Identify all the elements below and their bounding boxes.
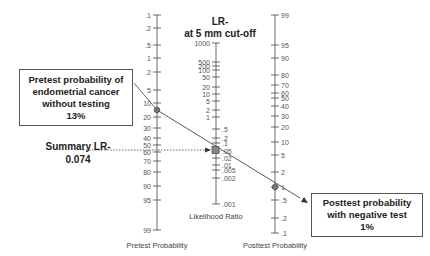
lr-ticks: 1000500200100502010521.5.2.1.05.02.01.00… xyxy=(194,40,235,208)
tick-label: 10 xyxy=(143,100,151,107)
pretest-callout-value: 13% xyxy=(20,110,132,122)
tick-label: .2 xyxy=(281,215,287,222)
tick-label: .1 xyxy=(281,230,287,237)
tick-label: 99 xyxy=(143,227,151,234)
posttest-axis-title: Posttest Probability xyxy=(243,241,307,250)
tick-label: 5 xyxy=(147,87,151,94)
tick-label: 90 xyxy=(143,183,151,190)
posttest-ticks: 9995908070605040302010521.5.2.1 xyxy=(271,12,289,237)
tick-label: 80 xyxy=(143,169,151,176)
tick-label: 1 xyxy=(206,114,210,121)
pretest-ticks: .1.2.51251020304050607080909599 xyxy=(143,12,161,234)
posttest-callout: Posttest probability with negative test … xyxy=(311,193,423,237)
tick-label: .1 xyxy=(222,140,228,147)
tick-label: .001 xyxy=(222,201,236,208)
tick-label: .1 xyxy=(145,12,151,19)
tick-label: 90 xyxy=(281,55,289,62)
tick-label: .002 xyxy=(222,175,236,182)
tick-label: .5 xyxy=(222,126,228,133)
lr-axis-title: Likelihood Ratio xyxy=(189,212,242,221)
arrowhead-icon xyxy=(301,197,308,203)
summary-lr-value: 0.074 xyxy=(38,153,118,166)
tick-label: .005 xyxy=(222,167,236,174)
posttest-callout-value: 1% xyxy=(312,221,422,233)
tick-label: .5 xyxy=(145,42,151,49)
tick-label: 40 xyxy=(281,103,289,110)
arrowhead-icon xyxy=(205,148,211,153)
posttest-callout-line2: with negative test xyxy=(312,209,422,221)
tick-label: 20 xyxy=(143,114,151,121)
tick-label: 10 xyxy=(281,139,289,146)
pretest-callout-line3: without testing xyxy=(20,98,132,110)
tick-label: 10 xyxy=(202,91,210,98)
pretest-point-marker xyxy=(154,107,160,113)
tick-label: 2 xyxy=(206,107,210,114)
tick-label: .2 xyxy=(145,25,151,32)
tick-label: 2 xyxy=(281,169,285,176)
tick-label: 70 xyxy=(281,82,289,89)
tick-label: 60 xyxy=(143,149,151,156)
tick-label: 1 xyxy=(147,55,151,62)
posttest-point-marker xyxy=(272,184,278,190)
tick-label: 50 xyxy=(143,142,151,149)
pretest-callout-line2: endometrial cancer xyxy=(20,86,132,98)
tick-label: 1000 xyxy=(194,40,210,47)
posttest-callout-line1: Posttest probability xyxy=(312,197,422,209)
tick-label: 50 xyxy=(202,74,210,81)
tick-label: 30 xyxy=(143,125,151,132)
summary-lr-point-marker xyxy=(212,147,219,154)
tick-label: 20 xyxy=(281,124,289,131)
tick-label: 99 xyxy=(281,12,289,19)
tick-label: 95 xyxy=(143,197,151,204)
tick-label: 5 xyxy=(281,152,285,159)
lr-header-subtitle: at 5 mm cut-off xyxy=(184,28,256,39)
pretest-axis-title: Pretest Probability xyxy=(127,241,188,250)
nomogram-line xyxy=(157,110,300,198)
pretest-callout-line1: Pretest probability of xyxy=(20,74,132,86)
lr-header-title: LR- xyxy=(212,16,229,27)
tick-label: 40 xyxy=(143,135,151,142)
tick-label: 5 xyxy=(206,98,210,105)
tick-label: 20 xyxy=(202,84,210,91)
pretest-callout: Pretest probability of endometrial cance… xyxy=(19,69,133,126)
tick-label: 95 xyxy=(281,42,289,49)
tick-label: .5 xyxy=(281,197,287,204)
tick-label: 80 xyxy=(281,72,289,79)
tick-label: 50 xyxy=(281,95,289,102)
summary-lr-label: Summary LR- 0.074 xyxy=(38,140,118,166)
tick-label: 100 xyxy=(198,67,210,74)
tick-label: 70 xyxy=(143,158,151,165)
summary-lr-title: Summary LR- xyxy=(38,140,118,153)
tick-label: 30 xyxy=(281,113,289,120)
tick-label: 2 xyxy=(147,69,151,76)
